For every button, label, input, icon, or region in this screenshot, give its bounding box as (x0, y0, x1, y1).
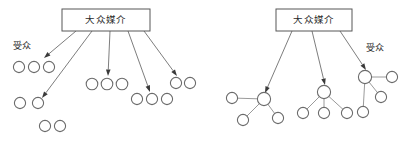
left-arrow-shaft (144, 31, 173, 71)
audience-node (13, 61, 24, 72)
right-cluster-right (357, 70, 397, 117)
left-group-right (170, 77, 195, 88)
audience-node (146, 93, 157, 104)
audience-node (32, 97, 43, 108)
left-arrow-shaft (49, 31, 76, 54)
left-audience-label: 受众 (13, 40, 32, 51)
audience-node (226, 92, 237, 103)
right-cluster-left (226, 92, 283, 125)
right-arrow-shaft (268, 31, 292, 87)
audience-node (39, 120, 50, 131)
right-source-box-label: 大众媒介 (293, 14, 335, 25)
right-arrow-head (265, 86, 270, 93)
right-arrow-shaft (312, 31, 323, 79)
audience-node (54, 120, 65, 131)
opinion-leader-node (257, 92, 270, 105)
audience-node (375, 91, 386, 102)
left-source-box: 大众媒介 (62, 9, 150, 31)
audience-node (357, 106, 368, 117)
left-group-bottom-left (39, 120, 65, 131)
left-group-center-upper (86, 78, 128, 90)
figure-container: 大众媒介受众大众媒介受众 (0, 0, 410, 141)
left-arrow (44, 31, 76, 58)
left-group-mid-left (14, 97, 43, 108)
right-arrow-head (360, 63, 366, 70)
opinion-leader-node (317, 85, 330, 98)
right-arrow (312, 31, 326, 85)
left-arrow-shaft (108, 31, 110, 70)
right-arrow (265, 31, 292, 93)
left-source-box-label: 大众媒介 (85, 14, 127, 25)
audience-node (116, 78, 128, 90)
right-arrow (340, 31, 366, 70)
right-audience-label: 受众 (366, 42, 385, 53)
audience-node (341, 107, 352, 118)
left-group-center-lower (131, 93, 172, 104)
audience-node (161, 93, 172, 104)
opinion-leader-node (358, 70, 371, 83)
audience-node (237, 114, 248, 125)
audience-node (131, 93, 142, 104)
diagram-canvas: 大众媒介受众大众媒介受众 (0, 0, 410, 141)
audience-node (101, 78, 113, 90)
left-arrow (144, 31, 177, 76)
left-arrow-head (106, 69, 111, 76)
right-arrow-shaft (340, 31, 362, 65)
left-arrow-shaft (128, 31, 148, 86)
audience-node (184, 77, 195, 88)
right-cluster-middle (297, 85, 352, 118)
audience-node (386, 71, 397, 82)
left-arrow (106, 31, 111, 76)
left-group-top-left (13, 61, 54, 72)
left-arrow-head (146, 85, 150, 92)
audience-node (170, 77, 181, 88)
left-arrow-shaft (46, 31, 92, 93)
audience-node (318, 107, 329, 118)
audience-node (86, 78, 98, 90)
right-diagram: 大众媒介受众 (226, 9, 397, 126)
left-arrow-head (42, 91, 48, 98)
audience-node (272, 112, 283, 123)
right-source-box: 大众媒介 (276, 9, 352, 31)
left-arrow-head (171, 69, 177, 76)
left-diagram: 大众媒介受众 (13, 9, 196, 132)
audience-node (43, 61, 54, 72)
right-arrow-head (321, 78, 325, 85)
audience-node (28, 61, 39, 72)
left-arrow (128, 31, 150, 92)
audience-node (14, 97, 25, 108)
audience-node (297, 107, 308, 118)
